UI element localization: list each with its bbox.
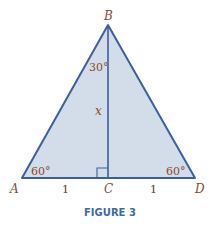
- figure-caption: FIGURE 3: [84, 207, 136, 218]
- triangle-diagram: B A C D 30° 60° 60° x 1 1 FIGURE 3: [0, 0, 214, 228]
- vertex-c-label: C: [104, 182, 113, 196]
- angle-d-label: 60°: [166, 165, 186, 178]
- segment-ac-label: 1: [62, 183, 69, 196]
- vertex-d-label: D: [194, 182, 205, 196]
- vertex-b-label: B: [103, 9, 113, 23]
- segment-bc-label: x: [95, 104, 102, 118]
- angle-a-label: 60°: [31, 165, 51, 178]
- segment-cd-label: 1: [150, 183, 157, 196]
- vertex-a-label: A: [9, 182, 19, 196]
- angle-b-label: 30°: [89, 61, 109, 74]
